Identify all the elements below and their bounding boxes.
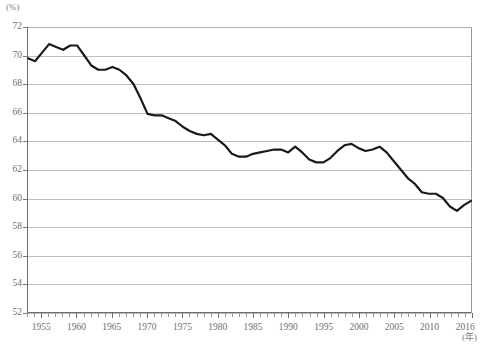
x-tick-mark-2015 (465, 313, 466, 317)
x-tick-mark-1985 (253, 313, 254, 318)
x-tick-mark-1953 (27, 313, 28, 317)
x-tick-mark-1979 (211, 313, 212, 317)
x-tick-mark-1960 (76, 313, 77, 318)
y-tick-label-68: 68 (2, 79, 22, 89)
x-tick-mark-2004 (387, 313, 388, 317)
x-tick-mark-1974 (175, 313, 176, 317)
y-tick-label-58: 58 (2, 222, 22, 232)
x-tick-mark-1996 (331, 313, 332, 317)
x-tick-mark-1955 (41, 313, 42, 318)
x-tick-label-1955: 1955 (32, 322, 51, 332)
x-tick-mark-1994 (317, 313, 318, 317)
x-tick-mark-1967 (126, 313, 127, 317)
x-tick-mark-1970 (147, 313, 148, 318)
x-tick-mark-2002 (373, 313, 374, 317)
x-tick-mark-1956 (48, 313, 49, 317)
x-tick-label-1995: 1995 (314, 322, 333, 332)
x-tick-mark-2010 (430, 313, 431, 318)
x-tick-mark-1999 (352, 313, 353, 317)
x-tick-label-1975: 1975 (173, 322, 192, 332)
x-tick-label-1990: 1990 (279, 322, 298, 332)
y-tick-label-62: 62 (2, 165, 22, 175)
x-tick-label-1965: 1965 (102, 322, 121, 332)
y-tick-label-64: 64 (2, 136, 22, 146)
x-tick-mark-2009 (423, 313, 424, 317)
x-tick-mark-1997 (338, 313, 339, 317)
x-tick-mark-1980 (218, 313, 219, 318)
x-tick-mark-1963 (98, 313, 99, 317)
x-tick-mark-1992 (302, 313, 303, 317)
x-tick-mark-1965 (112, 313, 113, 318)
x-tick-mark-1975 (182, 313, 183, 318)
x-tick-mark-1982 (232, 313, 233, 317)
x-tick-mark-1987 (267, 313, 268, 317)
x-tick-mark-1954 (34, 313, 35, 317)
x-tick-label-2005: 2005 (385, 322, 404, 332)
x-tick-mark-1973 (168, 313, 169, 317)
x-tick-label-1970: 1970 (138, 322, 157, 332)
x-tick-mark-1961 (84, 313, 85, 317)
y-tick-label-66: 66 (2, 108, 22, 118)
x-tick-mark-1966 (119, 313, 120, 317)
y-tick-label-52: 52 (2, 308, 22, 318)
x-tick-mark-2014 (458, 313, 459, 317)
x-tick-mark-1972 (161, 313, 162, 317)
x-tick-mark-1995 (324, 313, 325, 318)
x-tick-mark-2005 (394, 313, 395, 318)
x-tick-mark-1989 (281, 313, 282, 317)
x-tick-mark-1984 (246, 313, 247, 317)
plot-area (27, 27, 472, 313)
x-tick-mark-1993 (310, 313, 311, 317)
x-tick-mark-1981 (225, 313, 226, 317)
x-tick-mark-1988 (274, 313, 275, 317)
x-tick-label-1985: 1985 (244, 322, 263, 332)
x-tick-mark-1958 (62, 313, 63, 317)
x-tick-mark-1969 (140, 313, 141, 317)
x-axis: 1955196019651970197519801985199019952000… (27, 313, 473, 343)
x-tick-label-1960: 1960 (67, 322, 86, 332)
source-footnote (2, 344, 302, 353)
x-tick-mark-2011 (437, 313, 438, 317)
line-series (28, 27, 471, 312)
x-tick-mark-2003 (380, 313, 381, 317)
x-tick-mark-1957 (55, 313, 56, 317)
x-tick-mark-1968 (133, 313, 134, 317)
x-tick-mark-1978 (204, 313, 205, 317)
y-tick-label-54: 54 (2, 279, 22, 289)
x-tick-mark-1991 (295, 313, 296, 317)
y-tick-label-70: 70 (2, 51, 22, 61)
x-tick-mark-2007 (408, 313, 409, 317)
x-tick-mark-1977 (197, 313, 198, 317)
x-tick-label-2016: 2016 (456, 322, 475, 332)
y-tick-label-56: 56 (2, 251, 22, 261)
y-tick-label-72: 72 (2, 22, 22, 32)
x-tick-label-2010: 2010 (420, 322, 439, 332)
x-tick-mark-1990 (288, 313, 289, 318)
x-tick-mark-1962 (91, 313, 92, 317)
x-tick-mark-1998 (345, 313, 346, 317)
x-tick-mark-1971 (154, 313, 155, 317)
x-tick-mark-1986 (260, 313, 261, 317)
x-tick-mark-1976 (189, 313, 190, 317)
x-tick-mark-2001 (366, 313, 367, 317)
series-path (28, 44, 471, 211)
y-tick-label-60: 60 (2, 194, 22, 204)
x-tick-mark-2000 (359, 313, 360, 318)
x-tick-mark-1964 (105, 313, 106, 317)
x-tick-mark-2013 (451, 313, 452, 317)
x-tick-mark-1959 (69, 313, 70, 317)
x-tick-mark-2012 (444, 313, 445, 317)
x-tick-mark-2008 (415, 313, 416, 317)
x-tick-label-1980: 1980 (208, 322, 227, 332)
x-tick-mark-1983 (239, 313, 240, 317)
x-tick-label-2000: 2000 (349, 322, 368, 332)
x-tick-mark-2006 (401, 313, 402, 317)
x-tick-mark-2016 (472, 313, 473, 318)
